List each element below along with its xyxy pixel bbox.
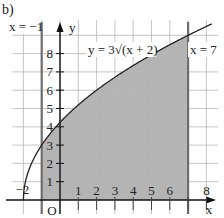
y-tick-label: 4	[47, 119, 54, 134]
y-tick-label: 5	[47, 101, 54, 116]
y-axis-label: y	[69, 20, 76, 35]
y-tick-label: 2	[47, 156, 54, 171]
x-tick-label: 1	[75, 183, 82, 198]
function-area-chart: b)123456781234568−2Oxyx = −1x = 7y = 3√(…	[0, 0, 224, 218]
y-tick-label: 7	[47, 64, 54, 79]
x-tick-label-neg2: −2	[15, 182, 29, 197]
x-tick-label: 8	[203, 183, 210, 198]
x-axis-label: x	[206, 202, 213, 217]
x-tick-label: 4	[130, 183, 137, 198]
x-tick-label: 3	[112, 183, 119, 198]
x-tick-label: 2	[93, 183, 100, 198]
figure-label: b)	[2, 2, 14, 18]
boundary-label-x7: x = 7	[190, 42, 217, 57]
x-tick-label: 5	[148, 183, 155, 198]
y-axis-arrow-icon	[57, 22, 64, 32]
y-tick-label: 1	[47, 174, 54, 189]
x-tick-label: 6	[167, 183, 174, 198]
boundary-label-x-neg1: x = −1	[9, 19, 43, 34]
origin-label: O	[47, 203, 56, 218]
y-tick-label: 6	[47, 83, 54, 98]
y-tick-label: 8	[47, 46, 54, 61]
y-tick-label: 3	[47, 138, 54, 153]
function-label: y = 3√(x + 2)	[88, 42, 157, 57]
